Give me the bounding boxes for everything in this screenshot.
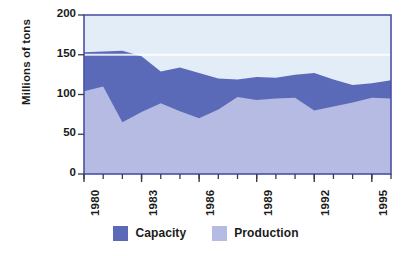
legend-item-capacity[interactable]: Capacity	[113, 226, 186, 241]
area-chart-figure: Millions of tons 050100150200 1980198319…	[0, 0, 412, 256]
x-tick-label: 1980	[89, 190, 101, 216]
chart-legend: CapacityProduction	[0, 222, 412, 244]
x-tick-label: 1992	[319, 190, 331, 216]
x-tick-label: 1995	[377, 190, 389, 216]
legend-label: Production	[234, 226, 298, 240]
legend-swatch-icon	[212, 226, 227, 241]
legend-label: Capacity	[135, 226, 186, 240]
x-tick-label: 1989	[262, 190, 274, 216]
x-tick-label: 1983	[147, 190, 159, 216]
legend-swatch-icon	[113, 226, 128, 241]
x-tick-label: 1986	[204, 190, 216, 216]
legend-item-production[interactable]: Production	[212, 226, 298, 241]
